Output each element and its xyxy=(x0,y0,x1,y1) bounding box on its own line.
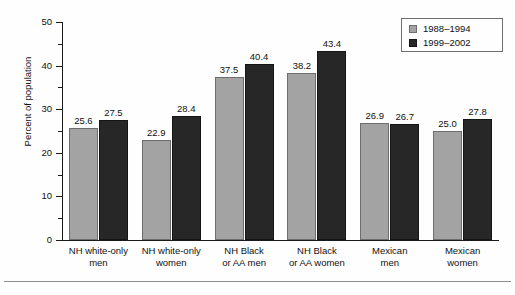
bar-value-label: 26.7 xyxy=(386,112,423,122)
bar xyxy=(317,51,346,240)
bar xyxy=(69,128,98,240)
bar xyxy=(172,116,201,240)
bar-value-label: 25.6 xyxy=(65,116,102,126)
y-axis-tick-label: 0 xyxy=(22,235,52,245)
bar-value-label: 27.8 xyxy=(459,107,496,117)
bar xyxy=(390,124,419,240)
black-swatch-icon xyxy=(409,39,417,47)
legend-item-label: 1999–2002 xyxy=(423,38,471,48)
legend-item: 1988–1994 xyxy=(409,22,502,35)
y-axis-tick-label: 50 xyxy=(22,17,52,27)
bar-value-label: 40.4 xyxy=(241,52,278,62)
y-axis-tick-label: 10 xyxy=(22,191,52,201)
bar xyxy=(360,123,389,240)
bar xyxy=(142,140,171,240)
bar xyxy=(433,131,462,240)
x-axis-category-label: NH Blackor AA men xyxy=(204,245,285,269)
bar-value-label: 38.2 xyxy=(283,61,320,71)
bar-value-label: 37.5 xyxy=(211,65,248,75)
x-axis-category-label: NH white-onlymen xyxy=(58,245,139,269)
bar xyxy=(215,77,244,241)
plot-area: 25.627.522.928.437.540.438.243.426.926.7… xyxy=(62,22,499,240)
bar-value-label: 25.0 xyxy=(429,119,466,129)
x-axis-category-label: Mexicanwomen xyxy=(422,245,503,269)
x-axis-category-label: NH Blackor AA women xyxy=(277,245,358,269)
bar-value-label: 43.4 xyxy=(313,39,350,49)
bar xyxy=(245,64,274,240)
y-axis-tick-label: 20 xyxy=(22,148,52,158)
x-axis-category-label: NH white-onlywomen xyxy=(131,245,212,269)
y-axis-tick-label: 40 xyxy=(22,61,52,71)
gray-swatch-icon xyxy=(409,25,417,33)
y-axis-tick-label: 30 xyxy=(22,104,52,114)
footer-divider xyxy=(4,281,511,282)
legend-item-label: 1988–1994 xyxy=(423,24,471,34)
bar xyxy=(287,73,316,240)
bar xyxy=(463,119,492,240)
legend: 1988–1994 1999–2002 xyxy=(401,18,503,52)
bar-value-label: 28.4 xyxy=(168,104,205,114)
x-axis-line xyxy=(62,240,499,241)
bar-value-label: 22.9 xyxy=(138,128,175,138)
legend-item: 1999–2002 xyxy=(409,36,502,49)
bar-value-label: 27.5 xyxy=(95,108,132,118)
bar xyxy=(99,120,128,240)
x-axis-category-label: Mexicanmen xyxy=(349,245,430,269)
y-axis-tick xyxy=(56,240,62,241)
figure-container: Percent of population 01020304050 25.627… xyxy=(0,0,515,295)
